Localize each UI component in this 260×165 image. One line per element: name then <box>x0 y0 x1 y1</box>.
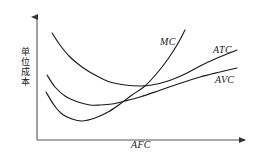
x-axis-label: AFC <box>131 139 151 150</box>
curve-avc <box>47 68 237 105</box>
curve-label-atc: ATC <box>213 44 232 55</box>
cost-curves-figure: 单位成本 MC ATC AVC AFC <box>0 0 260 165</box>
curve-label-mc: MC <box>160 36 176 47</box>
y-axis-label: 单位成本 <box>16 47 30 87</box>
curve-atc <box>52 33 237 86</box>
curve-group <box>46 30 237 121</box>
curve-label-avc: AVC <box>215 74 234 85</box>
axis-group <box>37 17 245 140</box>
